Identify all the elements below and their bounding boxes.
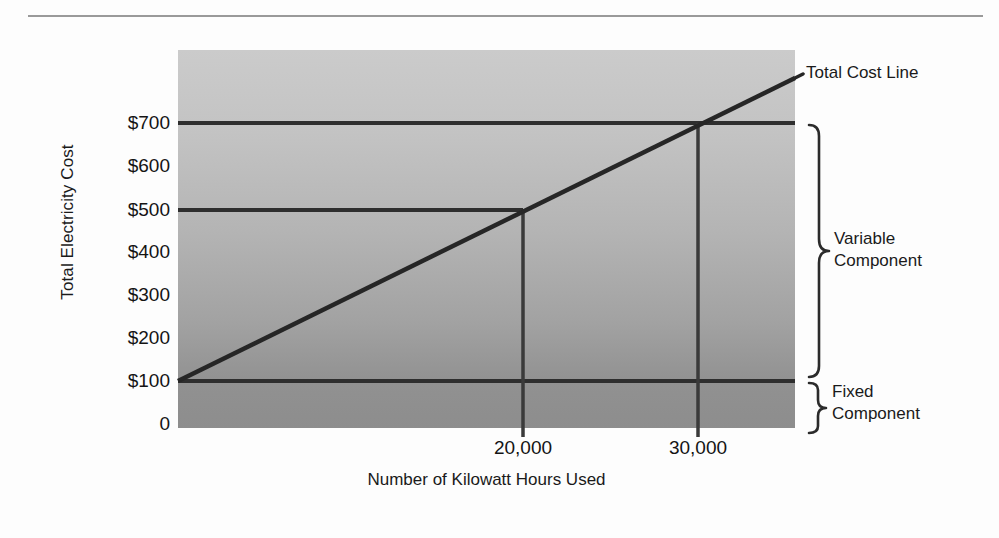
plot-area: [178, 50, 795, 428]
mixed-cost-chart: Total Electricity Cost $700 $600 $500 $4…: [0, 0, 999, 538]
annotation-variable-component: Variable Component: [834, 228, 922, 273]
variable-component-brace: [809, 125, 829, 377]
y-tick-200: $200: [50, 327, 170, 349]
figure-canvas: Total Electricity Cost $700 $600 $500 $4…: [0, 0, 999, 538]
x-tick-30000: 30,000: [628, 437, 768, 459]
annotation-total-cost-line: Total Cost Line: [806, 62, 918, 84]
y-tick-300: $300: [50, 284, 170, 306]
fixed-component-brace: [809, 383, 826, 433]
y-tick-400: $400: [50, 241, 170, 263]
x-axis-title: Number of Kilowatt Hours Used: [178, 470, 795, 490]
annotation-fixed-component: Fixed Component: [832, 381, 920, 426]
y-axis-tick-labels: $700 $600 $500 $400 $300 $200 $100 0: [46, 0, 170, 538]
y-tick-600: $600: [50, 155, 170, 177]
x-tick-20000: 20,000: [453, 437, 593, 459]
y-tick-700: $700: [50, 112, 170, 134]
y-tick-0: 0: [50, 413, 170, 435]
y-tick-100: $100: [50, 370, 170, 392]
y-tick-500: $500: [50, 199, 170, 221]
